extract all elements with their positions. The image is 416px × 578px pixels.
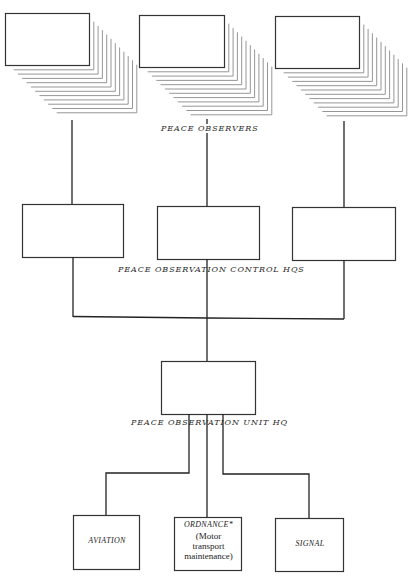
ordnance-subtitle-line-1: (Motor <box>175 531 242 541</box>
signal-title: SIGNAL <box>276 539 344 548</box>
observer-stack-layer <box>327 68 407 116</box>
ordnance-subtitle-line-2: transport <box>175 541 242 551</box>
observer-front-box <box>140 16 225 68</box>
horizontal-bus <box>73 317 344 320</box>
org-chart <box>0 0 416 578</box>
observer-stack-3 <box>276 17 407 116</box>
support-connectors <box>106 414 309 518</box>
ordnance-box-text: ORDNANCE* (Motor transport maintenance) <box>175 520 242 561</box>
signal-box-text: SIGNAL <box>276 539 344 548</box>
ordnance-title: ORDNANCE* <box>175 520 242 529</box>
connector-aviation <box>106 414 189 515</box>
control-hq-boxes <box>23 205 396 261</box>
aviation-title: AVIATION <box>74 536 140 545</box>
observer-stack-2 <box>140 16 272 115</box>
unit-hq-box <box>162 362 256 415</box>
observer-stack-layer <box>186 62 267 110</box>
connector-signal <box>223 414 309 518</box>
peace-observers-label: PEACE OBSERVERS <box>160 124 260 133</box>
control-hq-box-3 <box>293 208 396 261</box>
observer-stack-layer <box>322 63 402 111</box>
aviation-box-text: AVIATION <box>74 536 140 545</box>
unit-hq-label: PEACE OBSERVATION UNIT HQ <box>130 418 289 427</box>
control-hq-box-2 <box>158 207 260 260</box>
observer-stack-layer <box>191 67 272 115</box>
observer-stack-layer <box>57 65 137 113</box>
peace-observer-stacks <box>6 14 407 116</box>
control-hqs-label: PEACE OBSERVATION CONTROL HQS <box>117 265 306 274</box>
observer-stack-layer <box>52 60 132 108</box>
control-hq-box-1 <box>23 205 124 258</box>
ordnance-subtitle-line-3: maintenance) <box>175 551 242 561</box>
observer-front-box <box>6 14 90 66</box>
observer-stack-1 <box>6 14 137 113</box>
observer-front-box <box>276 17 360 69</box>
